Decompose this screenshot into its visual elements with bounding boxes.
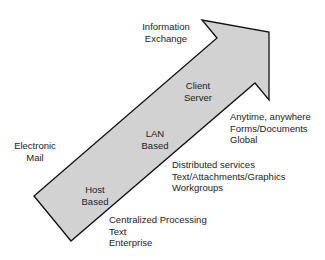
label-line: Electronic (8, 140, 62, 152)
stage-line: Server (173, 92, 223, 104)
stage-line: Host (70, 184, 120, 196)
label-electronic-mail: Electronic Mail (8, 140, 62, 163)
note-line: Anytime, anywhere (230, 111, 311, 123)
note-line: Distributed services (172, 159, 286, 171)
notes-lan: Distributed services Text/Attachments/Gr… (172, 159, 286, 194)
stage-client-server: Client Server (173, 80, 223, 103)
note-line: Text/Attachments/Graphics (172, 171, 286, 183)
note-line: Centralized Processing (109, 214, 207, 226)
note-line: Workgroups (172, 182, 286, 194)
stage-line: Based (130, 140, 180, 152)
label-line: Information (136, 21, 196, 33)
notes-client: Anytime, anywhere Forms/Documents Global (230, 111, 311, 146)
stage-line: Based (70, 196, 120, 208)
stage-line: LAN (130, 128, 180, 140)
note-line: Global (230, 134, 311, 146)
stage-lan-based: LAN Based (130, 128, 180, 151)
stage-line: Client (173, 80, 223, 92)
label-information-exchange: Information Exchange (136, 21, 196, 44)
note-line: Text (109, 226, 207, 238)
label-line: Mail (8, 152, 62, 164)
stage-host-based: Host Based (70, 184, 120, 207)
label-line: Exchange (136, 33, 196, 45)
notes-host: Centralized Processing Text Enterprise (109, 214, 207, 249)
note-line: Enterprise (109, 237, 207, 249)
note-line: Forms/Documents (230, 123, 311, 135)
